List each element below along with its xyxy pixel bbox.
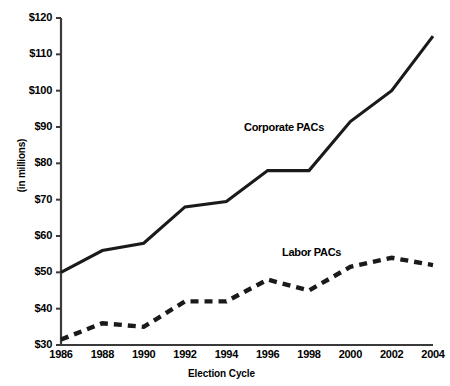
x-tick-label: 1990 bbox=[121, 349, 167, 360]
x-tick-label: 1994 bbox=[203, 349, 249, 360]
x-tick-label: 1988 bbox=[79, 349, 125, 360]
series-label-labor-pacs: Labor PACs bbox=[282, 246, 341, 258]
x-tick-label: 1996 bbox=[245, 349, 291, 360]
x-axis-title: Election Cycle bbox=[0, 368, 443, 379]
series-label-corporate-pacs: Corporate PACs bbox=[244, 121, 324, 133]
x-tick-label: 2002 bbox=[369, 349, 415, 360]
x-tick-label: 1986 bbox=[38, 349, 84, 360]
x-tick-label: 2000 bbox=[327, 349, 373, 360]
x-tick-label: 1992 bbox=[162, 349, 208, 360]
x-tick-label: 1998 bbox=[286, 349, 332, 360]
x-tick-label: 2004 bbox=[410, 349, 450, 360]
